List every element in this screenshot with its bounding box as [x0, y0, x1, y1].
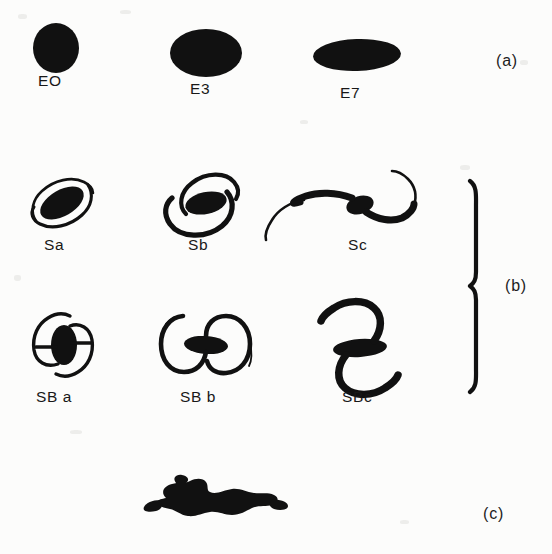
galaxy-label-Sc: Sc	[348, 236, 367, 254]
elliptical-galaxy-E7	[312, 37, 401, 72]
galaxy-label-SBa: SB a	[36, 388, 72, 406]
panel-label-b: (b)	[505, 277, 527, 295]
spiral-group-brace	[470, 181, 476, 392]
galaxy-label-E7: E7	[340, 84, 360, 102]
barred-spiral-galaxy-SBc	[321, 302, 398, 395]
barred-spiral-galaxy-SBa	[34, 314, 93, 376]
panel-label-a: (a)	[496, 52, 518, 70]
panel-label-c: (c)	[483, 505, 504, 523]
hubble-tuning-fork-figure: EO E3 E7 Sa Sb Sc SB a SB b SBc (a) (b) …	[0, 0, 552, 554]
barred-spiral-galaxy-SBb	[161, 316, 251, 373]
irregular-galaxy	[144, 475, 288, 516]
galaxy-label-SBc: SBc	[342, 388, 372, 406]
elliptical-galaxy-E0	[33, 23, 79, 73]
spiral-galaxy-Sc	[266, 171, 416, 240]
galaxy-label-E0: EO	[38, 72, 62, 90]
galaxy-drawing-canvas	[0, 0, 552, 554]
spiral-galaxy-Sa	[32, 179, 93, 227]
galaxy-label-Sb: Sb	[188, 236, 208, 254]
galaxy-label-Sa: Sa	[44, 236, 64, 254]
elliptical-galaxy-E3	[170, 29, 242, 77]
galaxy-label-E3: E3	[190, 80, 210, 98]
galaxy-label-SBb: SB b	[180, 388, 216, 406]
spiral-galaxy-Sb	[166, 175, 238, 236]
